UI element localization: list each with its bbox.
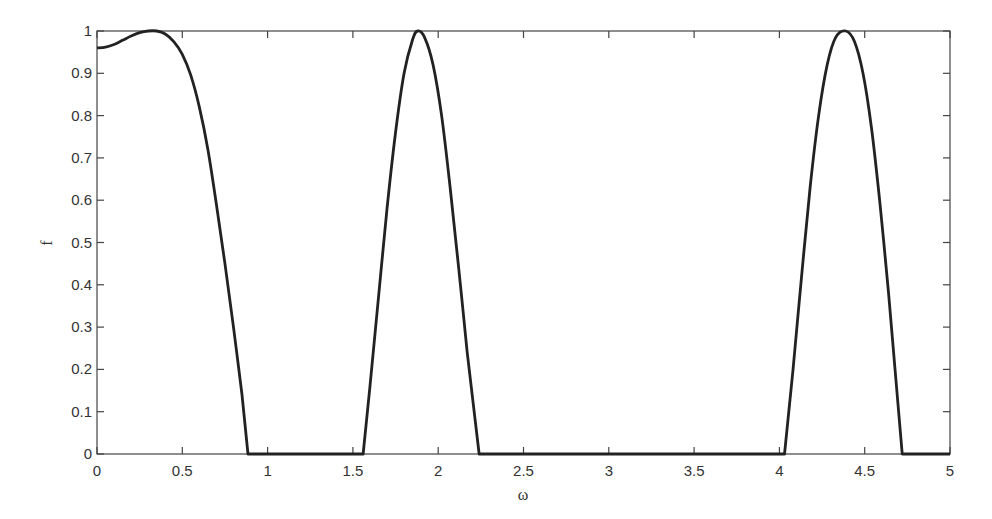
y-tick-label: 0.2 [71,360,92,377]
y-tick-labels: 00.10.20.30.40.50.60.70.80.91 [71,22,92,462]
series-line [97,31,950,454]
data-series [97,31,950,454]
x-tick-label: 0 [93,462,101,479]
y-tick-label: 0.6 [71,191,92,208]
y-tick-label: 0.5 [71,234,92,251]
y-axis-label: f [38,240,55,246]
x-tick-label: 2.5 [513,462,534,479]
y-tick-label: 0.4 [71,276,92,293]
x-axis-label: ω [518,486,529,503]
x-tick-label: 5 [946,462,954,479]
y-tick-label: 0 [84,445,92,462]
y-tick-label: 0.1 [71,403,92,420]
x-tick-label: 2 [434,462,442,479]
x-tick-label: 3.5 [684,462,705,479]
line-chart: 00.511.522.533.544.55 00.10.20.30.40.50.… [0,0,992,519]
x-tick-label: 3 [605,462,613,479]
x-tick-label: 1.5 [342,462,363,479]
x-tick-label: 0.5 [172,462,193,479]
x-tick-labels: 00.511.522.533.544.55 [93,462,954,479]
y-tick-label: 0.3 [71,318,92,335]
x-tick-label: 4.5 [854,462,875,479]
x-tick-label: 4 [775,462,783,479]
y-tick-label: 0.9 [71,64,92,81]
y-tick-label: 1 [84,22,92,39]
y-tick-label: 0.8 [71,107,92,124]
y-tick-label: 0.7 [71,149,92,166]
x-tick-label: 1 [263,462,271,479]
